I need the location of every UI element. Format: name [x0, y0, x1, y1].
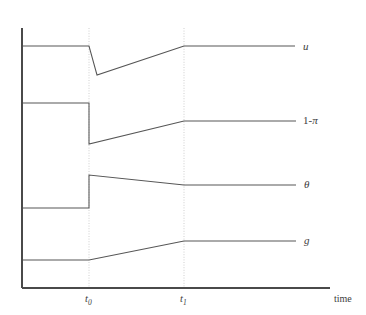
series-label-1-pi: 1-π — [303, 114, 318, 126]
chart-axes — [22, 28, 330, 288]
guide-lines — [89, 28, 184, 288]
x-axis-title: time — [334, 293, 352, 304]
series-line-1-pi — [23, 103, 296, 144]
series-line-g — [23, 241, 296, 260]
series-label-u: u — [303, 40, 309, 52]
line-chart-svg: u 1-π θ g t0 t1 time — [0, 0, 366, 315]
tick-label-t0: t0 — [85, 293, 92, 307]
series-paths — [23, 46, 296, 260]
series-label-theta: θ — [304, 178, 310, 190]
series-line-u — [23, 46, 295, 75]
chart-figure: u 1-π θ g t0 t1 time — [0, 0, 366, 315]
series-line-theta — [23, 175, 296, 208]
series-labels: u 1-π θ g — [303, 40, 318, 246]
x-axis-tick-labels: t0 t1 time — [85, 293, 352, 307]
series-label-g: g — [304, 234, 310, 246]
tick-label-t1: t1 — [180, 293, 187, 307]
